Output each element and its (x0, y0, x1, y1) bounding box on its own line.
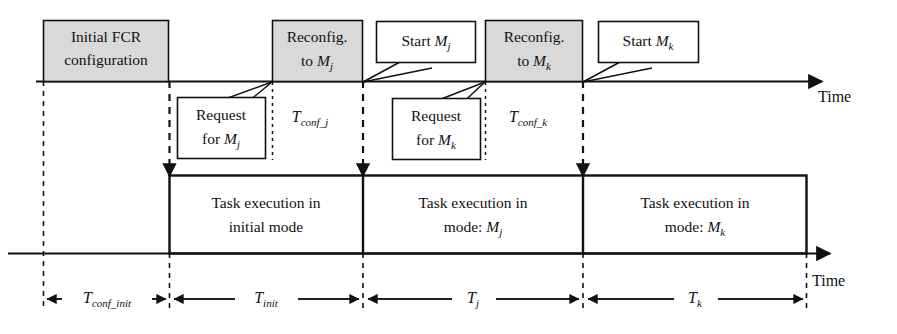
callout-start-j: Start Mj (377, 22, 476, 63)
execution-row-rect (170, 176, 807, 254)
request-k-line1: Request (411, 107, 462, 124)
bottom-axis-time-label: Time (812, 272, 845, 289)
request-j-line2: for Mj (202, 130, 240, 150)
request-j-line1: Request (196, 106, 247, 123)
request-k-line2: for Mk (416, 131, 457, 151)
label-t-conf-j: Tconf_j (292, 108, 328, 128)
exec-init-line2: initial mode (229, 218, 304, 235)
reconfig-k-line1: Reconfig. (504, 28, 565, 45)
reconfig-j-line2: to Mj (301, 52, 333, 72)
initial-fcr-line1: Initial FCR (71, 28, 142, 45)
shaded-box-reconfig-k: Reconfig. to Mk (486, 21, 583, 82)
timing-diagram-canvas: Time Init (0, 0, 897, 334)
start-j-line1: Start Mj (401, 32, 450, 52)
exec-j-line2: mode: Mj (444, 218, 503, 238)
timing-diagram-svg: Time Init (0, 0, 897, 334)
leader-start-k-b (583, 68, 652, 82)
initial-fcr-line2: configuration (64, 51, 148, 68)
label-t-conf-k: Tconf_k (509, 108, 548, 128)
exec-init-line1: Task execution in (211, 194, 320, 211)
shaded-box-initial-fcr: Initial FCR configuration (44, 21, 169, 82)
leader-start-j-b (363, 68, 432, 82)
exec-j-line1: Task execution in (418, 194, 527, 211)
shaded-box-reconfig-j: Reconfig. to Mj (273, 21, 363, 82)
exec-k-line1: Task execution in (640, 194, 749, 211)
start-k-line1: Start Mk (623, 32, 675, 52)
execution-row: Task execution in initial mode Task exec… (170, 176, 807, 254)
callout-request-k: Request for Mk (393, 99, 481, 160)
exec-k-line2: mode: Mk (665, 218, 727, 238)
top-axis-time-label: Time (818, 88, 851, 105)
bottom-axis: Time (8, 254, 845, 289)
callout-request-j: Request for Mj (178, 98, 266, 159)
reconfig-j-line1: Reconfig. (287, 28, 348, 45)
callout-start-k: Start Mk (599, 22, 699, 63)
duration-measures: Tconf_init Tinit Tj Tk (47, 287, 803, 311)
